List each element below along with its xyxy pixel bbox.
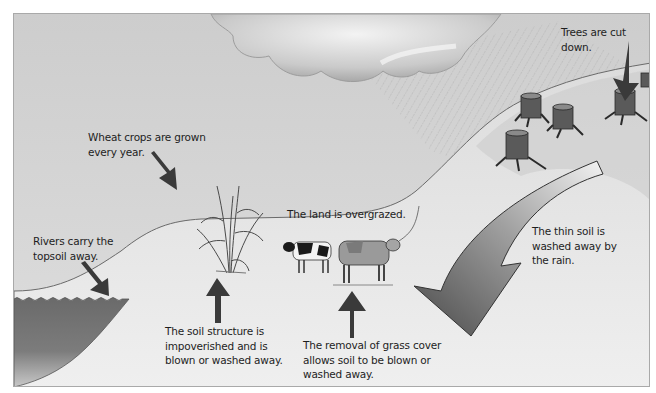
label-soil-structure: The soil structure is impoverished and i… (165, 324, 283, 368)
tree-stump (641, 73, 650, 87)
label-grass-removal: The removal of grass cover allows soil t… (303, 338, 441, 382)
label-rivers: Rivers carry the topsoil away. (33, 234, 113, 263)
label-wheat-crops: Wheat crops are grown every year. (88, 130, 206, 159)
label-trees-cut: Trees are cut down. (561, 25, 649, 54)
erosion-scene (14, 14, 650, 387)
label-overgrazed: The land is overgrazed. (287, 207, 406, 222)
diagram-frame: Trees are cut down. Wheat crops are grow… (13, 13, 650, 387)
label-thin-soil: The thin soil is washed away by the rain… (532, 224, 617, 268)
